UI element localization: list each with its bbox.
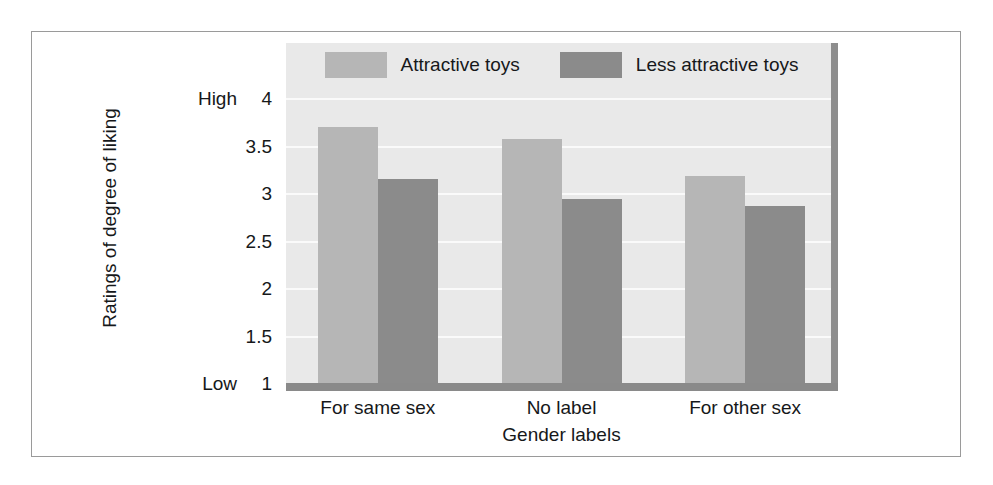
y-axis-anchor-labels: HighLow [142,32,237,458]
bar-chart: 43.532.521.51 HighLow Ratings of degree … [32,32,962,458]
bar [318,127,378,384]
y-tick-label: 1 [261,374,272,393]
chart-legend: Attractive toysLess attractive toys [286,43,837,87]
bar [502,139,562,383]
legend-entry: Less attractive toys [560,52,799,78]
y-axis-high-label: High [198,89,237,108]
gridline [286,98,837,100]
legend-swatch [325,52,387,78]
x-category-label: For other sex [689,397,801,419]
bar [685,176,745,383]
y-tick-label: 2 [261,279,272,298]
legend-entry: Attractive toys [325,52,520,78]
y-tick-label: 4 [261,89,272,108]
x-category-label: No label [527,397,597,419]
y-tick-label: 3 [261,184,272,203]
figure-frame: 43.532.521.51 HighLow Ratings of degree … [31,31,961,457]
y-axis-low-label: Low [202,374,237,393]
bar [562,199,622,383]
x-axis-title: Gender labels [286,424,837,446]
x-category-label: For same sex [320,397,435,419]
y-tick-label: 2.5 [246,231,272,250]
legend-label: Attractive toys [401,54,520,76]
y-tick-label: 3.5 [246,136,272,155]
legend-swatch [560,52,622,78]
y-tick-label: 1.5 [246,326,272,345]
plot-right-edge [831,43,838,388]
x-axis-baseline [286,383,838,391]
bar [745,206,805,383]
legend-label: Less attractive toys [636,54,799,76]
y-axis-title: Ratings of degree of liking [99,68,121,368]
bar [378,179,438,383]
